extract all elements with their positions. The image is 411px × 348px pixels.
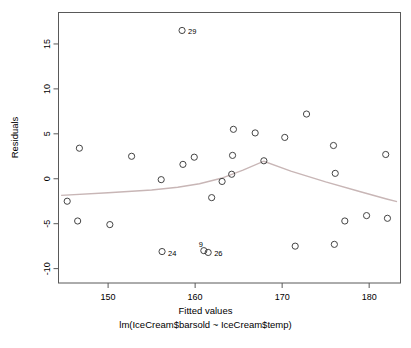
x-tick-label: 170 (275, 292, 290, 302)
x-tick-label: 160 (188, 292, 203, 302)
plot-frame (59, 13, 401, 284)
x-axis-ticks: 150160170180 (101, 283, 377, 302)
data-points (64, 27, 390, 255)
y-tick-label: 0 (43, 176, 53, 181)
y-tick-label: 5 (43, 131, 53, 136)
x-tick-label: 150 (101, 292, 116, 302)
data-point (209, 195, 215, 201)
data-point (330, 142, 336, 148)
data-point (303, 111, 309, 117)
outlier-label-9: 9 (199, 240, 203, 249)
data-point (219, 178, 225, 184)
y-axis-title: Residuals (9, 108, 20, 168)
outlier-label-24: 24 (168, 249, 176, 258)
loess-smoother-line (61, 161, 397, 201)
data-point (191, 154, 197, 160)
data-point (292, 243, 298, 249)
panel-border (59, 13, 401, 284)
data-point (75, 218, 81, 224)
plot-canvas: 150160170180 -10-5051015 2429926 (0, 0, 411, 348)
plot-subtitle-formula: lm(IceCream$barsold ~ IceCream$temp) (0, 319, 411, 330)
data-point (252, 130, 258, 136)
data-point-labels: 2429926 (168, 27, 222, 258)
outlier-label-29: 29 (188, 27, 196, 36)
residuals-vs-fitted-plot: 150160170180 -10-5051015 2429926 Residua… (0, 0, 411, 348)
outlier-label-26: 26 (214, 249, 222, 258)
y-tick-label: 15 (43, 39, 53, 49)
data-point (179, 27, 185, 33)
y-tick-label: -10 (43, 262, 53, 275)
data-point (383, 151, 389, 157)
data-point (384, 215, 390, 221)
smoother-polyline (61, 161, 397, 201)
data-point (107, 221, 113, 227)
y-axis-ticks: -10-5051015 (43, 39, 59, 275)
x-tick-label: 180 (362, 292, 377, 302)
data-point (282, 134, 288, 140)
data-point (230, 126, 236, 132)
x-axis-title: Fitted values (0, 305, 411, 316)
data-point (342, 218, 348, 224)
data-point (158, 177, 164, 183)
y-tick-label: -5 (43, 220, 53, 228)
data-point (159, 248, 165, 254)
data-point (64, 198, 70, 204)
data-point (180, 161, 186, 167)
data-point (331, 241, 337, 247)
data-point (332, 170, 338, 176)
data-point (129, 153, 135, 159)
y-tick-label: 10 (43, 84, 53, 94)
data-point (76, 145, 82, 151)
data-point (229, 152, 235, 158)
data-point (363, 213, 369, 219)
